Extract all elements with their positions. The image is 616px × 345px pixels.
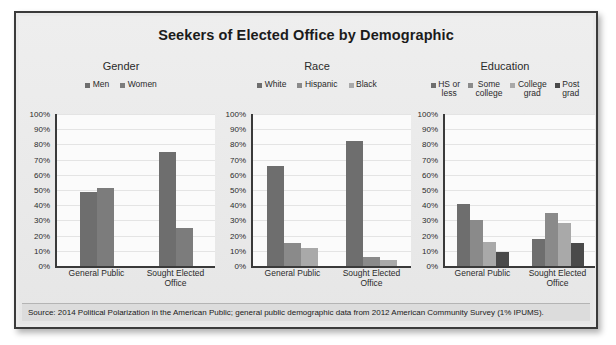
y-tick-label: 60%: [34, 170, 50, 179]
bar-education-2-1[interactable]: [558, 223, 571, 266]
y-tick-label: 0%: [38, 262, 50, 271]
legend-item-race-0[interactable]: White: [257, 80, 286, 89]
y-tick-label: 50%: [34, 186, 50, 195]
plot-area-education: [443, 114, 595, 268]
y-tick-label: 40%: [230, 201, 246, 210]
y-axis-gender: 100%90%80%70%60%50%40%30%20%10%0%: [23, 114, 53, 266]
y-tick-label: 40%: [34, 201, 50, 210]
source-bar: Source: 2014 Political Polarization in t…: [22, 303, 590, 321]
x-axis-category-label: General Public: [445, 269, 520, 288]
figure-inner: Seekers of Elected Office by Demographic…: [19, 16, 593, 324]
legend-label: College grad: [518, 80, 547, 98]
plot-area-race: [251, 114, 411, 268]
y-tick-label: 60%: [422, 170, 438, 179]
bar-education-1-0[interactable]: [470, 220, 483, 266]
plot-area-gender: [55, 114, 215, 268]
chart-title: Seekers of Elected Office by Demographic: [19, 27, 593, 43]
legend-item-education-0[interactable]: HS or less: [431, 80, 460, 98]
x-axis-category-label: General Public: [253, 269, 332, 288]
bar-education-1-1[interactable]: [545, 213, 558, 266]
y-tick-label: 70%: [422, 155, 438, 164]
legend-race: WhiteHispanicBlack: [219, 80, 415, 89]
y-tick-label: 100%: [30, 110, 50, 119]
bar-group: [332, 114, 411, 266]
y-tick-label: 60%: [230, 170, 246, 179]
x-labels-race: General PublicSought Elected Office: [253, 269, 411, 288]
chart-figure: Seekers of Elected Office by Demographic…: [14, 11, 598, 329]
bar-race-0-0[interactable]: [267, 166, 284, 266]
legend-item-education-3[interactable]: Post grad: [555, 80, 580, 98]
source-text: Source: 2014 Political Polarization in t…: [22, 308, 544, 317]
bar-gender-0-0[interactable]: [80, 192, 97, 266]
bar-education-3-1[interactable]: [571, 243, 584, 266]
y-tick-label: 40%: [422, 201, 438, 210]
legend-swatch-icon: [297, 83, 302, 88]
bar-race-2-0[interactable]: [301, 248, 318, 266]
bar-gender-1-1[interactable]: [176, 228, 193, 266]
y-tick-label: 10%: [230, 246, 246, 255]
legend-label: Some college: [475, 80, 502, 98]
legend-item-race-1[interactable]: Hispanic: [297, 80, 337, 89]
x-axis-category-label: General Public: [57, 269, 136, 288]
y-tick-label: 20%: [34, 231, 50, 240]
bar-gender-1-0[interactable]: [97, 188, 114, 266]
bar-race-1-1[interactable]: [363, 257, 380, 266]
y-tick-label: 10%: [422, 246, 438, 255]
legend-item-education-1[interactable]: Some college: [468, 80, 502, 98]
panel-education: Education HS or lessSome collegeCollege …: [411, 60, 599, 310]
bar-gender-0-1[interactable]: [159, 152, 176, 266]
panel-title-race: Race: [219, 60, 415, 72]
y-tick-label: 0%: [234, 262, 246, 271]
legend-label: Post grad: [562, 80, 579, 98]
y-tick-label: 70%: [34, 155, 50, 164]
y-tick-label: 30%: [230, 216, 246, 225]
legend-item-education-2[interactable]: College grad: [510, 80, 546, 98]
y-axis-education: 100%90%80%70%60%50%40%30%20%10%0%: [411, 114, 441, 266]
plot-gender: 100%90%80%70%60%50%40%30%20%10%0% Genera…: [23, 114, 219, 310]
panel-gender: Gender MenWomen 100%90%80%70%60%50%40%30…: [23, 60, 219, 310]
bar-group: [253, 114, 332, 266]
legend-swatch-icon: [510, 83, 515, 88]
legend-label: Women: [128, 80, 157, 89]
y-tick-label: 10%: [34, 246, 50, 255]
x-labels-education: General PublicSought Elected Office: [445, 269, 595, 288]
legend-swatch-icon: [431, 83, 436, 88]
legend-item-gender-0[interactable]: Men: [85, 80, 109, 89]
legend-label: Black: [356, 80, 377, 89]
y-tick-label: 50%: [230, 186, 246, 195]
bar-education-0-0[interactable]: [457, 204, 470, 266]
bar-education-2-0[interactable]: [483, 242, 496, 266]
y-tick-label: 80%: [230, 140, 246, 149]
legend-label: HS or less: [438, 80, 460, 98]
legend-label: White: [265, 80, 287, 89]
y-tick-label: 30%: [422, 216, 438, 225]
y-tick-label: 0%: [426, 262, 438, 271]
y-tick-label: 80%: [34, 140, 50, 149]
legend-swatch-icon: [120, 83, 125, 88]
panel-title-education: Education: [411, 60, 599, 72]
bar-group: [57, 114, 136, 266]
bar-race-2-1[interactable]: [380, 260, 397, 266]
bar-group: [136, 114, 215, 266]
legend-label: Men: [93, 80, 110, 89]
bar-race-0-1[interactable]: [346, 141, 363, 266]
x-labels-gender: General PublicSought Elected Office: [57, 269, 215, 288]
bar-education-3-0[interactable]: [496, 252, 509, 266]
plot-race: 100%90%80%70%60%50%40%30%20%10%0% Genera…: [219, 114, 415, 310]
y-tick-label: 70%: [230, 155, 246, 164]
y-tick-label: 30%: [34, 216, 50, 225]
y-tick-label: 50%: [422, 186, 438, 195]
bar-group: [445, 114, 520, 266]
legend-swatch-icon: [85, 83, 90, 88]
bar-race-1-0[interactable]: [284, 243, 301, 266]
legend-item-race-2[interactable]: Black: [349, 80, 377, 89]
bar-education-0-1[interactable]: [532, 239, 545, 266]
bar-groups-gender: [57, 114, 215, 266]
y-tick-label: 90%: [34, 125, 50, 134]
bar-groups-race: [253, 114, 411, 266]
x-axis-category-label: Sought Elected Office: [136, 269, 215, 288]
y-tick-label: 20%: [422, 231, 438, 240]
y-tick-label: 100%: [226, 110, 246, 119]
legend-item-gender-1[interactable]: Women: [120, 80, 157, 89]
y-tick-label: 20%: [230, 231, 246, 240]
